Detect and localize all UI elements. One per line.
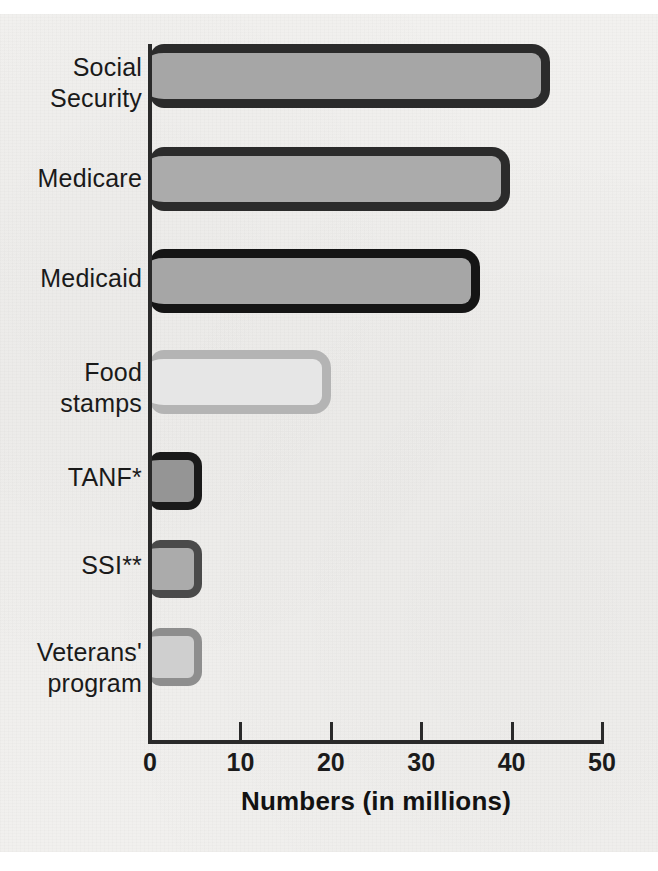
category-label-tanf: TANF* xyxy=(12,462,142,493)
category-label-line: TANF* xyxy=(12,462,142,493)
x-axis-tick xyxy=(511,722,514,741)
chart-page: Social Security Medicare Medicaid Food s… xyxy=(0,0,658,871)
category-label-food-stamps: Food stamps xyxy=(12,357,142,419)
y-axis-line xyxy=(148,44,152,744)
x-axis-tick-label: 10 xyxy=(210,748,270,777)
category-label-veterans-program: Veterans' program xyxy=(12,637,142,699)
category-label-line: stamps xyxy=(12,388,142,419)
bar-ssi xyxy=(150,540,202,598)
x-axis-tick xyxy=(330,722,333,741)
category-label-social-security: Social Security xyxy=(12,52,142,114)
category-label-line: Food xyxy=(12,357,142,388)
x-axis-tick xyxy=(601,722,604,741)
x-axis-tick-label: 40 xyxy=(482,748,542,777)
x-axis-title: Numbers (in millions) xyxy=(148,786,604,817)
category-label-medicaid: Medicaid xyxy=(12,263,142,294)
category-label-line: program xyxy=(12,668,142,699)
x-axis-line xyxy=(148,740,604,744)
bar-social-security xyxy=(150,44,550,108)
category-label-line: Security xyxy=(12,83,142,114)
x-axis-tick-label: 30 xyxy=(391,748,451,777)
bar-veterans-program xyxy=(150,628,202,686)
x-axis-tick xyxy=(239,722,242,741)
category-label-line: Medicaid xyxy=(12,263,142,294)
category-label-line: SSI** xyxy=(12,550,142,581)
x-axis-tick xyxy=(420,722,423,741)
category-label-line: Veterans' xyxy=(12,637,142,668)
bar-medicare xyxy=(150,147,510,211)
bar-food-stamps xyxy=(150,350,331,414)
x-axis-tick-label: 0 xyxy=(120,748,180,777)
category-label-column: Social Security Medicare Medicaid Food s… xyxy=(8,0,142,871)
category-label-ssi: SSI** xyxy=(12,550,142,581)
x-axis-tick-label: 20 xyxy=(301,748,361,777)
category-label-medicare: Medicare xyxy=(12,163,142,194)
bar-tanf xyxy=(150,452,202,510)
bar-medicaid xyxy=(150,249,480,313)
category-label-line: Medicare xyxy=(12,163,142,194)
bar-chart: Social Security Medicare Medicaid Food s… xyxy=(0,0,658,871)
category-label-line: Social xyxy=(12,52,142,83)
x-axis-tick-label: 50 xyxy=(572,748,632,777)
x-axis-tick xyxy=(149,722,152,741)
